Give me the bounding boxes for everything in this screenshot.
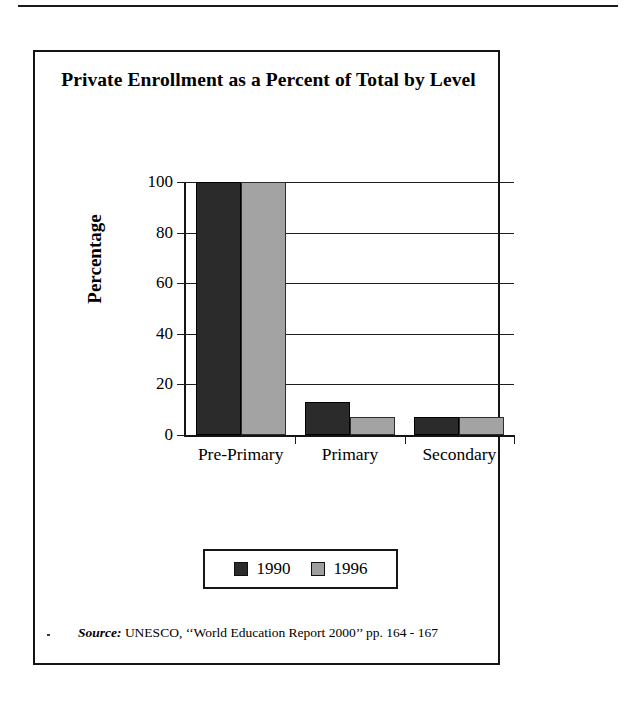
bar-pre-primary-1996[interactable] [241, 182, 286, 435]
bar-pre-primary-1990[interactable] [196, 182, 241, 435]
y-axis-tick [177, 435, 186, 436]
legend-item-1990[interactable]: 1990 [234, 559, 291, 579]
y-axis-tick [177, 233, 186, 234]
chart-legend: 1990 1996 [203, 549, 398, 589]
y-axis-label: 60 [156, 273, 173, 293]
bar-group [186, 182, 295, 435]
legend-label-1996: 1996 [334, 559, 368, 579]
y-axis-title: Percentage [84, 179, 106, 339]
y-axis-label: 40 [156, 324, 173, 344]
legend-swatch-icon-1996 [311, 562, 325, 576]
y-axis-tick [177, 334, 186, 335]
legend-item-1996[interactable]: 1996 [311, 559, 368, 579]
x-axis-tick [405, 435, 406, 444]
bar-group [295, 182, 404, 435]
source-bullet-mark [47, 634, 50, 636]
y-axis-tick [177, 182, 186, 183]
x-axis-tick [295, 435, 296, 444]
y-axis-label: 20 [156, 374, 173, 394]
x-axis-tick-end [514, 435, 515, 444]
source-text: UNESCO, ‘‘World Education Report 2000’’ … [125, 625, 438, 640]
source-label: Source: [78, 625, 122, 640]
y-axis-label: 100 [148, 172, 174, 192]
bar-primary-1996[interactable] [350, 417, 395, 435]
page-top-rule [18, 5, 618, 7]
source-note: Source: UNESCO, ‘‘World Education Report… [78, 625, 438, 641]
bar-secondary-1990[interactable] [414, 417, 459, 435]
x-axis-category-label: Secondary [389, 444, 529, 465]
y-axis-label: 80 [156, 223, 173, 243]
bar-secondary-1996[interactable] [459, 417, 504, 435]
plot-area: 020406080100Pre-PrimaryPrimarySecondary [184, 182, 514, 437]
bar-primary-1990[interactable] [305, 402, 350, 435]
y-axis-tick [177, 384, 186, 385]
legend-swatch-icon-1990 [234, 562, 248, 576]
figure-container: Private Enrollment as a Percent of Total… [33, 50, 500, 665]
y-axis-label: 0 [165, 425, 174, 445]
legend-label-1990: 1990 [257, 559, 291, 579]
bar-group [405, 182, 514, 435]
y-axis-tick [177, 283, 186, 284]
